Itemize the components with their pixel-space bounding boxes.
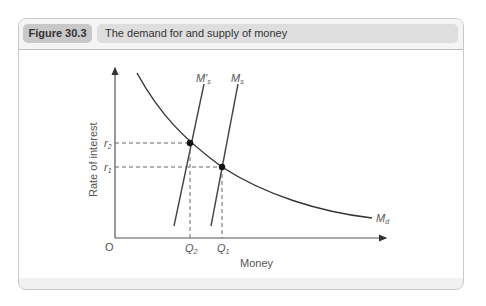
money-supply-prime-line [174,84,204,226]
money-demand-curve [137,73,372,218]
equilibrium-point-1 [219,164,225,170]
money-market-diagram: M′s Ms Md r2 r1 Q2 Q1 O Money Rate of in… [0,0,486,306]
x-axis-title: Money [240,257,274,269]
y-axis-title: Rate of interest [87,122,99,197]
r1-label: r1 [104,161,112,174]
origin-label: O [105,241,114,253]
q2-label: Q2 [185,242,198,255]
q1-label: Q1 [217,242,230,255]
money-supply-line [211,84,238,226]
ms-label: Ms [231,72,244,85]
ms-prime-label: M′s [196,72,211,85]
equilibrium-point-2 [187,140,193,146]
r2-label: r2 [104,137,112,150]
md-label: Md [376,212,390,225]
